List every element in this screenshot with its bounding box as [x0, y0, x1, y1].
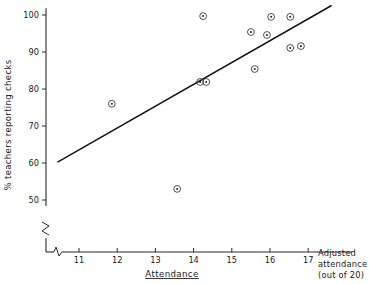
scatter-plot-figure: 506070809010011121314151617 Attendance %…: [0, 0, 369, 284]
axis-titles: Attendance % teachers reporting checks A…: [0, 0, 369, 284]
x-axis-note-line-3: (out of 20): [318, 270, 364, 280]
x-axis-note-line-2: attendance: [318, 259, 367, 269]
x-axis-note-line-1: Adjusted: [318, 248, 356, 258]
x-axis-title: Attendance: [145, 269, 198, 279]
y-axis-title: % teachers reporting checks: [3, 59, 13, 190]
